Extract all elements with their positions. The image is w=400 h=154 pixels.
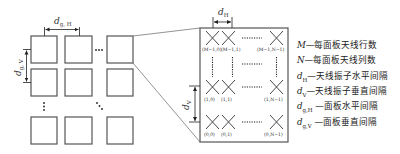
element-vertical-spacing-label: dV [181, 99, 192, 110]
legend-row-m: M—每面板天线行数 [297, 40, 388, 55]
element-horizontal-spacing-label: dH [218, 7, 229, 18]
element-label: (1,0) [204, 97, 215, 102]
panel-vertical-spacing-label: dg, V [13, 58, 25, 76]
panel-highlighted [107, 36, 133, 63]
grid-ellipsis-h [95, 49, 103, 51]
element-label: (M−1,1) [221, 47, 241, 52]
panel [65, 69, 92, 96]
panel-horizontal-spacing-label: dg, H [54, 16, 72, 28]
panel [107, 69, 133, 96]
legend-row-n: N—每面板天线列数 [297, 55, 388, 70]
legend-row-dgh: dg,H —面板水平间隔 [297, 101, 388, 116]
panel [107, 117, 133, 144]
panel [31, 117, 57, 144]
panel-grid [31, 36, 133, 144]
grid-ellipsis-diag [96, 102, 103, 110]
element-label: (1,N−1) [264, 97, 283, 102]
element-label: (M−1,0) [202, 47, 222, 52]
legend-row-dh: dH—天线振子水平间隔 [297, 71, 388, 86]
panel [65, 36, 92, 63]
element-label: (1,1) [221, 97, 232, 102]
element-label: (M−1,N−1) [257, 47, 285, 52]
element-horizontal-spacing-dimension [213, 17, 232, 28]
element-label: (0,N−1) [264, 132, 283, 137]
zoom-connector-lines [133, 28, 200, 142]
legend-row-dgv: dg,V —面板垂直间隔 [297, 117, 388, 132]
panel [31, 69, 57, 96]
panel [31, 36, 57, 63]
element-label: (0,1) [221, 132, 232, 137]
grid-ellipsis-v [43, 102, 45, 111]
legend: M—每面板天线行数 N—每面板天线列数 dH—天线振子水平间隔 dV—天线振子垂… [297, 40, 388, 132]
panel-horizontal-spacing-dimension [45, 27, 80, 36]
legend-row-dv: dV—天线振子垂直间隔 [297, 86, 388, 101]
element-label: (0,0) [204, 132, 215, 137]
panel-vertical-spacing-dimension [23, 50, 31, 83]
panel [65, 117, 92, 144]
